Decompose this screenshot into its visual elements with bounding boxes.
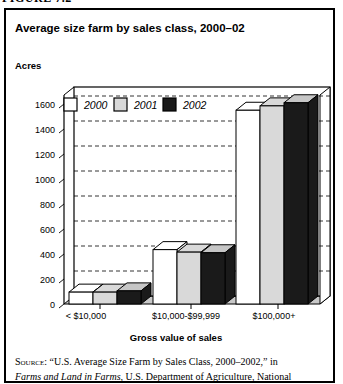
bar-side-face bbox=[308, 95, 318, 304]
y-tick bbox=[59, 204, 64, 208]
y-tick-label: 1200 bbox=[35, 150, 55, 160]
x-axis-title: Gross value of sales bbox=[36, 332, 316, 343]
bar-front-face bbox=[284, 103, 308, 304]
y-tick bbox=[59, 279, 64, 283]
y-axis-title: Acres bbox=[15, 60, 41, 71]
x-category-label: $10,000-$99,999 bbox=[152, 311, 220, 321]
bar-front-face bbox=[93, 292, 117, 304]
bar-front-face bbox=[69, 292, 93, 304]
chart-title: Average size farm by sales class, 2000–0… bbox=[15, 22, 245, 34]
chart-right-wall bbox=[320, 87, 330, 304]
axis-top-diagonal bbox=[64, 87, 74, 95]
figure-box: Average size farm by sales class, 2000–0… bbox=[4, 8, 335, 383]
x-category-label: < $10,000 bbox=[66, 311, 106, 321]
x-category-label: $100,000+ bbox=[253, 311, 296, 321]
bar-side-face bbox=[225, 245, 235, 304]
y-tick-label: 200 bbox=[40, 275, 55, 285]
figure-label-text: FIGURE 7.2 bbox=[2, 0, 122, 6]
bar-front-face bbox=[177, 252, 201, 304]
legend-label-2002: 2002 bbox=[182, 99, 207, 111]
bar-front-face bbox=[236, 110, 260, 304]
y-tick bbox=[59, 154, 64, 158]
y-tick-label: 1400 bbox=[35, 125, 55, 135]
legend-label-2000: 2000 bbox=[83, 99, 108, 111]
legend-swatch-2002 bbox=[163, 98, 176, 111]
bar-2002-group3 bbox=[284, 95, 318, 304]
source-line-1: Source: “U.S. Average Size Farm by Sales… bbox=[15, 354, 327, 369]
bar-front-face bbox=[260, 106, 284, 304]
y-tick bbox=[59, 104, 64, 108]
legend-swatch-2001 bbox=[114, 98, 127, 111]
bar-chart: 02004006008001000120014001600< $10,000$1… bbox=[6, 80, 333, 332]
y-tick bbox=[59, 304, 64, 308]
y-tick-label: 800 bbox=[40, 200, 55, 210]
y-tick-label: 1000 bbox=[35, 175, 55, 185]
legend-swatch-2000 bbox=[64, 98, 77, 111]
legend-label-2001: 2001 bbox=[133, 99, 157, 111]
source-line-1-text: “U.S. Average Size Farm by Sales Class, … bbox=[50, 356, 278, 367]
y-tick bbox=[59, 229, 64, 233]
y-tick-label: 0 bbox=[50, 300, 55, 310]
y-tick-label: 600 bbox=[40, 225, 55, 235]
bar-front-face bbox=[117, 291, 141, 304]
bar-front-face bbox=[201, 253, 225, 304]
source-line-2-text: U.S. Department of Agriculture, National bbox=[123, 371, 291, 382]
y-tick-label: 1600 bbox=[35, 100, 55, 110]
y-tick bbox=[59, 254, 64, 258]
source-note: Source: “U.S. Average Size Farm by Sales… bbox=[15, 354, 327, 384]
source-work-title: Farms and Land in Farms, bbox=[15, 371, 123, 382]
bar-2002-group2 bbox=[201, 245, 235, 304]
y-tick-label: 400 bbox=[40, 250, 55, 260]
y-tick bbox=[59, 179, 64, 183]
source-line-2: Farms and Land in Farms, U.S. Department… bbox=[15, 369, 327, 384]
bar-front-face bbox=[153, 250, 177, 304]
figure-label: FIGURE 7.2 bbox=[2, 0, 122, 6]
source-label: Source: bbox=[15, 356, 47, 367]
y-tick bbox=[59, 129, 64, 133]
